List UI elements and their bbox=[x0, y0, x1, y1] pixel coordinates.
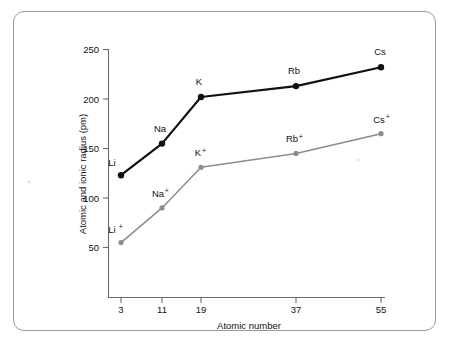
data-point-k bbox=[198, 94, 204, 100]
scan-speck bbox=[118, 164, 120, 166]
data-point-na-ion bbox=[159, 205, 164, 210]
data-point-cs bbox=[378, 64, 384, 70]
point-label-cs: Cs bbox=[374, 46, 386, 57]
data-point-cs-ion bbox=[378, 131, 383, 136]
x-axis: 3 11 19 37 55 Atomic number bbox=[109, 298, 387, 332]
x-axis-title: Atomic number bbox=[217, 320, 281, 331]
atomic-radius-markers bbox=[118, 64, 384, 178]
scan-speck bbox=[357, 159, 359, 161]
point-label-na-charge: + bbox=[165, 187, 169, 194]
y-tick-label-50: 50 bbox=[88, 242, 99, 253]
x-tick-label-3: 3 bbox=[118, 304, 123, 315]
x-tick-label-11: 11 bbox=[157, 304, 167, 315]
series-atomic-radius bbox=[118, 64, 384, 178]
x-tick-label-37: 37 bbox=[291, 304, 302, 315]
data-point-li bbox=[118, 172, 124, 178]
x-tick-label-55: 55 bbox=[376, 304, 387, 315]
point-label-cs-charge: + bbox=[386, 113, 390, 120]
point-label-rb-charge: + bbox=[299, 133, 303, 140]
data-point-li-ion bbox=[118, 240, 123, 245]
x-tick-label-19: 19 bbox=[196, 304, 207, 315]
point-label-k: K bbox=[196, 76, 203, 87]
y-axis-title: Atomic and ionic radius (pm) bbox=[77, 114, 88, 234]
point-label-cs-ion: Cs bbox=[373, 114, 385, 125]
point-label-na-ion: Na bbox=[152, 188, 165, 199]
point-label-rb: Rb bbox=[288, 65, 300, 76]
data-point-rb-ion bbox=[293, 151, 298, 156]
chart-plot-area: 250 200 150 100 50 Atomic and ionic radi… bbox=[0, 0, 449, 344]
point-label-na: Na bbox=[154, 123, 167, 134]
y-axis: 250 200 150 100 50 Atomic and ionic radi… bbox=[77, 44, 109, 298]
point-label-k-charge: + bbox=[202, 147, 206, 154]
data-point-k-ion bbox=[198, 165, 203, 170]
point-label-li-charge: + bbox=[119, 223, 123, 230]
point-label-li: Li bbox=[108, 157, 115, 168]
point-label-rb-ion: Rb bbox=[286, 133, 298, 144]
data-point-na bbox=[159, 140, 165, 146]
point-label-li-ion: Li bbox=[108, 224, 115, 235]
y-tick-label-200: 200 bbox=[83, 94, 99, 105]
atomic-radius-line bbox=[121, 67, 381, 175]
point-label-k-ion: K bbox=[195, 147, 202, 158]
data-point-rb bbox=[293, 83, 299, 89]
y-tick-label-250: 250 bbox=[83, 44, 99, 55]
scan-speck bbox=[28, 181, 30, 183]
